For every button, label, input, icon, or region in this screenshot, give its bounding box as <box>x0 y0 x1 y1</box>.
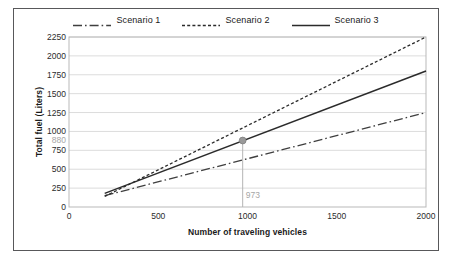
series-line-scenario-1 <box>105 113 426 196</box>
y-tick-2000: 2000 <box>47 51 66 61</box>
x-tick-0: 0 <box>67 211 72 221</box>
y-tick-750: 750 <box>52 145 66 155</box>
x-tick-2000: 2000 <box>417 211 436 221</box>
chart-canvas <box>69 37 426 207</box>
x-axis-title: Number of traveling vehicles <box>69 227 426 237</box>
legend-item-scenario-2: Scenario 2 <box>182 15 269 25</box>
legend-item-scenario-1: Scenario 1 <box>73 15 160 25</box>
intersection-marker <box>239 137 246 144</box>
annotation-x-value: 973 <box>246 190 260 200</box>
y-tick-1250: 1250 <box>47 108 66 118</box>
legend-item-scenario-3: Scenario 3 <box>292 15 379 25</box>
plot-area <box>69 37 426 207</box>
y-tick-500: 500 <box>52 164 66 174</box>
gridlines <box>69 37 426 188</box>
y-axis-tick-labels: 0250500750100012501500175020002250 <box>14 37 66 207</box>
legend-label-scenario-2: Scenario 2 <box>225 15 269 25</box>
y-tick-250: 250 <box>52 183 66 193</box>
x-tick-1500: 1500 <box>327 211 346 221</box>
legend-swatch-solid-icon <box>292 16 330 25</box>
legend-label-scenario-1: Scenario 1 <box>116 15 160 25</box>
series-line-scenario-3 <box>105 71 426 193</box>
legend-swatch-dashed-icon <box>182 16 220 25</box>
x-tick-500: 500 <box>151 211 165 221</box>
legend-label-scenario-3: Scenario 3 <box>335 15 379 25</box>
y-tick-2250: 2250 <box>47 32 66 42</box>
chart-figure: Scenario 1 Scenario 2 Scenario 3 Total f… <box>13 8 439 251</box>
series-line-scenario-2 <box>105 37 426 196</box>
plot-border <box>69 37 426 207</box>
y-tick-1750: 1750 <box>47 70 66 80</box>
data-series-layer <box>105 37 426 196</box>
legend-swatch-dash-dot-icon <box>73 16 111 25</box>
y-tick-0: 0 <box>61 202 66 212</box>
x-axis-tick-labels: 0500100015002000 <box>69 211 426 225</box>
annotation-y-value: 880 <box>41 135 66 145</box>
y-tick-1500: 1500 <box>47 89 66 99</box>
x-tick-1000: 1000 <box>238 211 257 221</box>
chart-legend: Scenario 1 Scenario 2 Scenario 3 <box>14 15 438 25</box>
